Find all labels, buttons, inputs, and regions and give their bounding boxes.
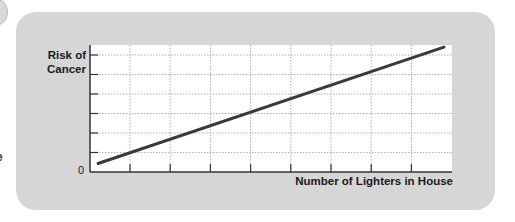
x-axis-label: Number of Lighters in House [260,175,453,187]
y-axis-label-line-2: Cancer [30,62,86,76]
y-axis-label-line-1: Risk of [30,48,86,62]
y-axis-label: Risk of Cancer [30,48,86,76]
line-chart [0,0,515,222]
origin-label: 0 [74,164,84,176]
plot-area [90,45,452,172]
